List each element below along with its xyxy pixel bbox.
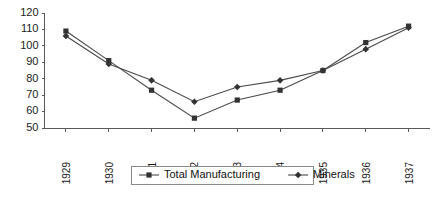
series-1 [63,24,411,121]
data-point-marker-square [363,40,368,45]
data-point-marker-diamond [277,77,284,84]
data-point-marker-diamond [148,77,155,84]
y-axis: 5060708090100110120 [20,6,44,133]
legend-label: Total Manufacturing [164,168,260,180]
data-point-marker-square [146,172,151,177]
series-layer [63,24,412,121]
data-point-marker-diamond [362,46,369,53]
y-tick-label: 60 [26,104,38,116]
legend-label: Minerals [313,168,355,180]
y-tick-label: 120 [20,6,38,18]
x-tick-label: 1937 [404,162,415,185]
data-point-marker-square [235,97,240,102]
y-tick-label: 110 [21,22,39,34]
data-point-marker-diamond [234,84,241,91]
data-point-marker-diamond [191,98,198,105]
data-point-marker-diamond [63,33,70,40]
series-line [66,28,409,102]
x-tick-label: 1929 [61,162,72,185]
y-tick-label: 80 [26,72,38,84]
y-tick-label: 70 [26,88,38,100]
y-tick-label: 90 [26,55,38,67]
x-tick-label: 1930 [104,162,115,185]
y-tick-label: 50 [26,121,38,133]
data-point-marker-square [277,88,282,93]
chart-canvas: 5060708090100110120 19291930193119321933… [0,0,441,199]
line-chart: 5060708090100110120 19291930193119321933… [0,0,441,199]
data-point-marker-square [149,88,154,93]
series-line [66,26,409,118]
data-point-marker-square [192,116,197,121]
y-tick-label: 100 [20,39,38,51]
x-tick-label: 1936 [361,162,372,185]
